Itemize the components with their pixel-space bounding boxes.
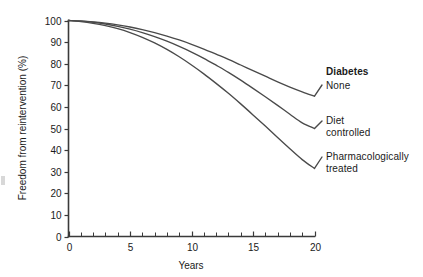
y-tick-label: 90 — [50, 37, 62, 48]
y-tick-label: 30 — [50, 167, 62, 178]
y-tick-label: 0 — [56, 232, 62, 243]
chart-figure: 0102030405060708090100 05101520 Freedom … — [0, 0, 423, 277]
y-tick-label: 20 — [50, 188, 62, 199]
legend-header-diabetes: Diabetes — [326, 66, 369, 78]
series-curve — [69, 21, 315, 97]
x-axis-title: Years — [178, 260, 203, 271]
chart-plot-area: 0102030405060708090100 05101520 Freedom … — [0, 0, 423, 277]
y-axis-ticks: 0102030405060708090100 — [45, 16, 69, 243]
series-curve — [69, 21, 315, 169]
x-axis-ticks: 05101520 — [67, 232, 322, 253]
y-tick-label: 100 — [45, 16, 62, 27]
series-label-none: None — [326, 80, 350, 92]
y-tick-label: 50 — [50, 124, 62, 135]
x-tick-label: 10 — [187, 242, 199, 253]
series-label-diet-controlled: Diet controlled — [326, 115, 370, 138]
x-tick-label: 20 — [310, 242, 322, 253]
y-axis-title: Freedom from reintervention (%) — [17, 56, 28, 201]
series-leader-line — [315, 121, 323, 129]
series-label-pharmacologically-treated: Pharmacologically treated — [326, 151, 409, 174]
series-leader-line — [315, 85, 323, 96]
x-tick-label: 5 — [128, 242, 134, 253]
series-curves — [69, 21, 323, 169]
x-tick-label: 15 — [248, 242, 260, 253]
y-tick-label: 60 — [50, 102, 62, 113]
y-tick-label: 80 — [50, 59, 62, 70]
x-tick-label: 0 — [67, 242, 73, 253]
y-tick-label: 40 — [50, 145, 62, 156]
series-curve — [69, 21, 315, 129]
y-tick-label: 10 — [50, 210, 62, 221]
series-leader-line — [315, 157, 323, 168]
y-tick-label: 70 — [50, 80, 62, 91]
